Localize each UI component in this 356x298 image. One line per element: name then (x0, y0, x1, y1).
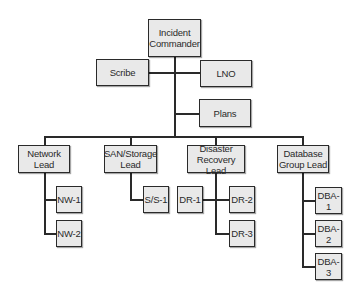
node-label: Incident Commander (149, 27, 199, 49)
connector-dba1 (302, 200, 315, 202)
node-incident-commander: Incident Commander (148, 19, 201, 57)
node-san-storage-lead: SAN/Storage Lead (104, 145, 157, 173)
node-label: LNO (217, 68, 236, 79)
node-label: SAN/Storage Lead (104, 148, 157, 170)
connector-scribe-lno (149, 72, 200, 74)
connector-db-vertical (302, 173, 304, 267)
connector-network-lead-drop (44, 136, 46, 145)
node-label: Disaster Recovery Lead (188, 143, 244, 176)
node-label: DBA-2 (316, 223, 341, 245)
node-dr-3: DR-3 (229, 220, 255, 247)
node-dba-2: DBA-2 (315, 220, 342, 247)
node-label: Network Lead (27, 148, 60, 170)
connector-san-vertical (130, 173, 132, 200)
connector-dba2 (302, 233, 315, 235)
node-label: DBA-1 (316, 190, 341, 212)
connector-leads-bar (44, 136, 303, 138)
node-dr-1: DR-1 (177, 186, 203, 213)
node-dba-1: DBA-1 (315, 187, 342, 214)
connector-dr-vertical (215, 173, 217, 234)
org-chart-diagram: Incident Commander Scribe LNO Plans Netw… (0, 0, 356, 298)
connector-ss1 (130, 199, 143, 201)
node-disaster-recovery-lead: Disaster Recovery Lead (187, 145, 245, 173)
node-label: DR-2 (231, 194, 252, 205)
connector-dba3 (302, 266, 315, 268)
node-dba-3: DBA-3 (315, 253, 342, 280)
node-label: DR-3 (231, 228, 252, 239)
node-database-group-lead: Database Group Lead (277, 145, 329, 173)
connector-dr1-dr2 (203, 199, 229, 201)
node-label: DR-1 (179, 194, 200, 205)
node-dr-2: DR-2 (229, 186, 255, 213)
connector-nw1 (44, 199, 56, 201)
node-label: DBA-3 (316, 256, 341, 278)
connector-db-lead-drop (302, 136, 304, 145)
node-scribe: Scribe (96, 59, 149, 86)
connector-network-vertical (44, 172, 46, 234)
node-nw-1: NW-1 (56, 186, 82, 213)
node-label: Scribe (110, 67, 136, 78)
node-plans: Plans (199, 99, 251, 127)
connector-trunk (174, 57, 176, 137)
node-label: Database Group Lead (279, 148, 327, 170)
node-nw-2: NW-2 (56, 220, 82, 247)
node-lno: LNO (200, 60, 252, 87)
node-label: Plans (214, 108, 237, 119)
node-label: NW-1 (57, 194, 80, 205)
node-label: S/S-1 (145, 194, 168, 205)
connector-plans (174, 113, 199, 115)
connector-dr3 (215, 233, 229, 235)
connector-nw2 (44, 233, 56, 235)
connector-san-lead-drop (130, 136, 132, 145)
node-label: NW-2 (57, 228, 80, 239)
node-ss-1: S/S-1 (143, 186, 169, 213)
node-network-lead: Network Lead (18, 145, 70, 173)
